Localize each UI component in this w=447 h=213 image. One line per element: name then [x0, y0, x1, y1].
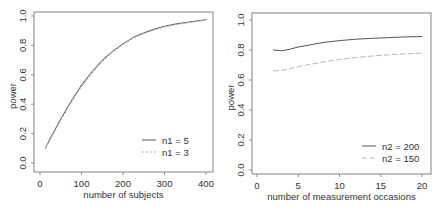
x-tick-label: 100 [74, 178, 90, 189]
x-tick-label: 0 [37, 178, 42, 189]
series-line-1 [45, 20, 206, 148]
series-line-0 [274, 37, 423, 51]
y-tick-label: 1.0 [235, 13, 246, 26]
y-tick-label: 0.6 [235, 73, 246, 86]
x-tick-label: 15 [375, 180, 386, 191]
x-tick-label: 200 [115, 178, 131, 189]
x-tick-label: 0 [254, 180, 259, 191]
x-axis-title: number of subjects [83, 189, 164, 200]
chart-panel-right: 051015200.00.20.40.60.81.0number of meas… [225, 13, 431, 202]
y-axis-title: power [7, 83, 18, 109]
chart-panel-left: 01002003004000.00.20.40.60.81.0number of… [7, 9, 214, 200]
x-tick-label: 300 [157, 178, 173, 189]
y-tick-label: 1.0 [17, 9, 28, 22]
y-tick-label: 0.0 [17, 156, 28, 169]
legend-label: n1 = 5 [162, 135, 189, 146]
y-tick-label: 0.6 [17, 68, 28, 81]
legend-label: n2 = 200 [382, 141, 419, 152]
y-tick-label: 0.0 [235, 163, 246, 176]
y-tick-label: 0.4 [17, 98, 28, 111]
x-tick-label: 20 [417, 180, 428, 191]
y-tick-label: 0.2 [235, 133, 246, 146]
x-axis-title: number of measurement occasions [267, 191, 416, 202]
y-tick-label: 0.4 [235, 103, 246, 116]
x-tick-label: 5 [296, 180, 301, 191]
y-tick-label: 0.8 [17, 39, 28, 52]
series-line-0 [45, 20, 206, 149]
legend-label: n1 = 3 [162, 147, 189, 158]
x-tick-label: 400 [198, 178, 214, 189]
legend-label: n2 = 150 [382, 153, 419, 164]
x-tick-label: 10 [334, 180, 345, 191]
series-line-1 [274, 53, 423, 71]
y-axis-title: power [225, 85, 236, 111]
y-tick-label: 0.8 [235, 43, 246, 56]
figure-canvas: 01002003004000.00.20.40.60.81.0number of… [0, 0, 447, 213]
y-tick-label: 0.2 [17, 127, 28, 140]
